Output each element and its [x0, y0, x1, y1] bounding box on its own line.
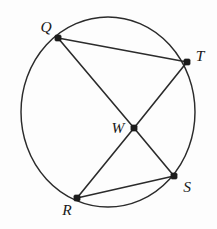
point-label-q: Q — [40, 18, 51, 35]
point-label-w: W — [112, 119, 127, 136]
point-label-s: S — [183, 178, 191, 195]
circle-outline — [21, 17, 195, 207]
segment-qw — [58, 38, 134, 128]
geometry-figure: Q T W S R — [0, 0, 217, 229]
vertex-dot-w — [131, 125, 137, 131]
segment-tw — [134, 62, 187, 128]
vertex-dot-t — [184, 59, 190, 65]
point-label-r: R — [61, 201, 72, 218]
segment-ws — [134, 128, 174, 176]
circle-diagram-canvas: Q T W S R — [0, 0, 217, 229]
vertex-dot-s — [171, 173, 177, 179]
segment-qt — [58, 38, 187, 62]
point-label-t: T — [196, 47, 206, 64]
vertex-dot-r — [74, 195, 80, 201]
vertex-dot-q — [55, 35, 61, 41]
